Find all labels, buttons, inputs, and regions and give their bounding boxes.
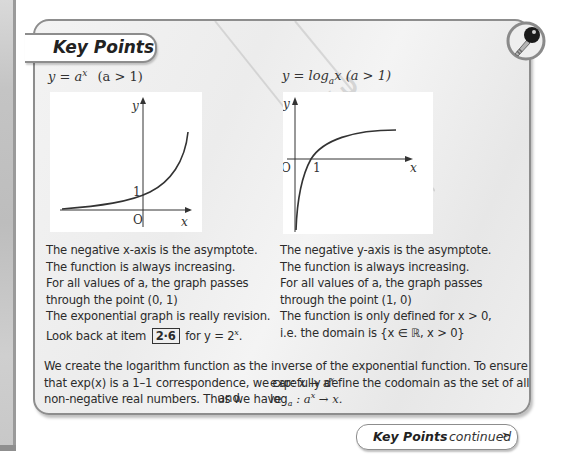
lookback-line: Look back at item 2·6 for y = 2x.: [46, 325, 270, 344]
logarithm-notes: The negative y-axis is the asymptote. Th…: [280, 242, 492, 342]
note-line: The exponential graph is really revision…: [46, 308, 270, 325]
panel-title: Key Points: [53, 37, 154, 57]
note-line: For all values of a, the graph passes: [280, 275, 492, 292]
exponential-equation: y = ax (a > 1): [48, 68, 143, 84]
y-axis-label: y: [283, 97, 290, 111]
panel-title-tab: Key Points: [25, 33, 157, 63]
and-label: and: [218, 391, 240, 405]
continued-bold-label: Key Points: [373, 429, 447, 444]
exp-mapping: exp: x → ax: [270, 375, 334, 390]
note-line: through the point (0, 1): [46, 292, 270, 309]
note-line: The function is always increasing.: [46, 259, 270, 276]
origin-label: O: [283, 161, 291, 175]
log-mapping: loga : ax → x.: [270, 391, 343, 408]
intercept-label: 1: [133, 185, 141, 199]
item-reference-link[interactable]: 2·6: [152, 328, 180, 344]
paragraph-line: We create the logarithm function as the …: [44, 358, 524, 375]
logarithm-equation: y = logax (a > 1): [282, 68, 391, 86]
note-line: The negative x-axis is the asymptote.: [46, 242, 270, 259]
note-line: The function is always increasing.: [280, 259, 492, 276]
note-line: For all values of a, the graph passes: [46, 275, 270, 292]
y-axis-label: y: [131, 99, 139, 113]
exponential-notes: The negative x-axis is the asymptote. Th…: [46, 242, 270, 344]
note-line: The function is only defined for x > 0,: [280, 308, 492, 325]
key-points-continued-link[interactable]: Key Points continued ➣: [356, 424, 518, 450]
key-icon: [505, 20, 547, 62]
x-axis-label: x: [181, 215, 188, 229]
exponential-graph: y x O 1: [50, 92, 202, 232]
note-line: i.e. the domain is {x ∈ ℝ, x > 0}: [280, 325, 492, 342]
page-edge-shadow: [0, 445, 16, 451]
x-axis-label: x: [410, 161, 417, 175]
note-line: through the point (1, 0): [280, 292, 492, 309]
note-line: The negative y-axis is the asymptote.: [280, 242, 492, 259]
origin-label: O: [133, 213, 143, 227]
page-edge-decoration: [0, 0, 16, 445]
intercept-label: 1: [313, 161, 321, 175]
arrow-right-icon: ➣: [501, 428, 511, 442]
logarithm-graph: y x O 1: [283, 92, 433, 234]
